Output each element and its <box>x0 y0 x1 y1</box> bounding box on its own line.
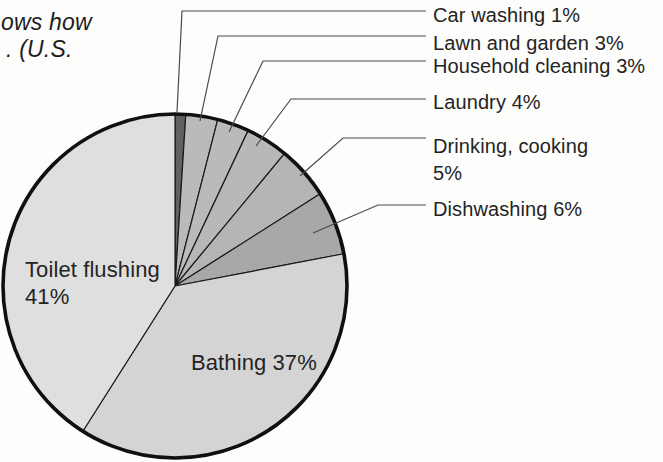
pie-inner-label: Toilet flushing41% <box>25 256 160 310</box>
pie-callout-label-line: 5% <box>433 160 588 187</box>
pie-inner-label-line: 41% <box>25 283 160 310</box>
pie-callout-label-line: Household cleaning 3% <box>433 54 645 78</box>
pie-callout-label-line: Laundry 4% <box>433 90 541 114</box>
leader-line <box>256 99 426 146</box>
pie-inner-label: Bathing 37% <box>191 349 317 376</box>
pie-callout-label: Lawn and garden 3% <box>433 31 624 55</box>
pie-callout-label: Laundry 4% <box>433 90 541 114</box>
pie-inner-label-line: Toilet flushing <box>25 256 160 283</box>
pie-inner-label-line: Bathing 37% <box>191 349 317 376</box>
leader-line <box>200 36 426 121</box>
pie-callout-label: Car washing 1% <box>433 3 580 27</box>
pie-callout-label: Drinking, cooking5% <box>433 133 588 187</box>
pie-callout-label-line: Drinking, cooking <box>433 133 588 160</box>
leader-line <box>229 61 426 132</box>
pie-callout-label-line: Car washing 1% <box>433 3 580 27</box>
pie-callout-label-line: Dishwashing 6% <box>433 197 582 221</box>
pie-callout-label: Household cleaning 3% <box>433 54 645 78</box>
page: ows how . (U.S. Car washing 1%Lawn and g… <box>0 0 663 462</box>
leader-line <box>300 138 426 176</box>
pie-callout-label-line: Lawn and garden 3% <box>433 31 624 55</box>
pie-callout-label: Dishwashing 6% <box>433 197 582 221</box>
